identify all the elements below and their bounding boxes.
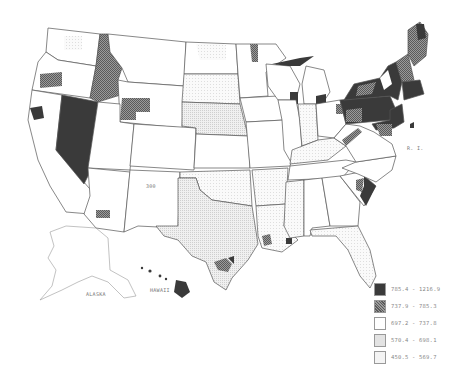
state-new-mexico (124, 170, 180, 232)
legend-swatch-light (374, 334, 386, 347)
legend-item: 785.4 - 1216.9 (374, 283, 454, 299)
region-arizona-south (96, 210, 110, 218)
legend-label: 737.9 - 785.3 (391, 303, 437, 309)
state-iowa (240, 96, 284, 122)
state-florida (310, 226, 376, 288)
state-arkansas (252, 168, 288, 206)
legend-item: 570.4 - 698.1 (374, 334, 454, 350)
legend-label: 570.4 - 698.1 (391, 337, 437, 343)
hawaii-big-island (174, 280, 190, 298)
legend-label: 450.5 - 569.7 (391, 354, 437, 360)
region-oregon-west (40, 72, 62, 88)
region-nd-west (196, 44, 226, 60)
region-louisiana-neworleans (286, 238, 292, 244)
rhode-island-label: R. I. (407, 145, 424, 151)
new-mexico-marker: 300 (146, 183, 156, 189)
rhode-island-callout-swatch (410, 122, 414, 128)
state-mississippi (284, 180, 304, 238)
legend-item: 450.5 - 569.7 (374, 351, 454, 367)
region-washington-north (64, 36, 82, 50)
hawaii-label: HAWAII (150, 287, 170, 293)
state-kansas (194, 134, 250, 168)
legend-label: 697.2 - 737.8 (391, 320, 437, 326)
state-new-york (344, 62, 402, 100)
contiguous-us: 300 (28, 22, 428, 290)
legend-swatch-white (374, 317, 386, 330)
legend-swatch-medium (374, 300, 386, 313)
alaska-label: ALASKA (86, 291, 106, 297)
region-pa-west (346, 108, 362, 122)
legend-label: 785.4 - 1216.9 (391, 286, 440, 292)
state-massachusetts-ct (402, 80, 424, 100)
legend: 785.4 - 1216.9 737.9 - 785.3 697.2 - 737… (374, 283, 454, 368)
legend-item: 697.2 - 737.8 (374, 317, 454, 333)
legend-swatch-dark (374, 283, 386, 296)
alaska-inset: ALASKA (40, 226, 136, 300)
state-colorado (130, 124, 196, 170)
state-south-dakota (182, 74, 240, 104)
hawaii-inset: HAWAII (141, 267, 190, 298)
state-montana (108, 34, 186, 86)
legend-item: 737.9 - 785.3 (374, 300, 454, 316)
legend-swatch-verylight (374, 351, 386, 364)
alaska-outline (40, 226, 136, 300)
state-arizona (84, 168, 130, 232)
region-maryland (376, 124, 392, 136)
